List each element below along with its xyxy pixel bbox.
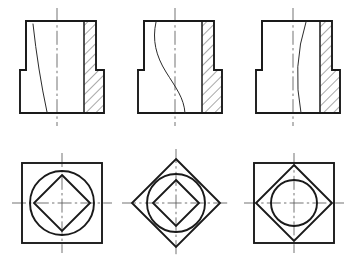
- drawing-canvas: [0, 0, 354, 264]
- drawing-sheet: Orthographic section views of intersecti…: [0, 0, 354, 264]
